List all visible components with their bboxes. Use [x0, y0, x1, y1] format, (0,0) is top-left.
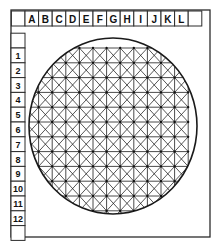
- lattice-node-dot: [146, 150, 148, 152]
- row-header-cell-12[interactable]: 12: [11, 211, 25, 226]
- lattice-node-dot: [105, 180, 107, 182]
- row-header-cell-2[interactable]: 2: [11, 63, 25, 78]
- lattice-node-dot: [160, 136, 162, 138]
- column-header-cell-c[interactable]: C: [52, 11, 66, 26]
- lattice-node-dot: [173, 180, 175, 182]
- lattice-diagonal-line: [175, 196, 189, 211]
- lattice-node-dot: [37, 91, 39, 93]
- row-header-cell-10[interactable]: 10: [11, 181, 25, 196]
- lattice-node-dot: [78, 224, 80, 226]
- row-header-cell-1[interactable]: 1: [11, 48, 25, 63]
- row-header-label: 6: [15, 125, 20, 135]
- lattice-node-dot: [92, 47, 94, 49]
- lattice-node-dot: [146, 180, 148, 182]
- lattice-node-dot: [173, 150, 175, 152]
- lattice-node-dot: [65, 121, 67, 123]
- lattice-diagonal-line: [175, 48, 189, 63]
- lattice-diagonal-line: [39, 48, 53, 63]
- lattice-diagonal-line: [25, 211, 39, 226]
- column-header-cell-d[interactable]: D: [66, 11, 80, 26]
- lattice-node-dot: [92, 62, 94, 64]
- lattice-diagonal-line: [25, 48, 39, 63]
- lattice-node-dot: [51, 106, 53, 108]
- lattice-node-dot: [37, 224, 39, 226]
- lattice-node-dot: [51, 180, 53, 182]
- lattice-node-dot: [92, 150, 94, 152]
- row-header-label: 11: [13, 199, 23, 209]
- lattice-node-dot: [146, 165, 148, 167]
- row-header-cell-7[interactable]: 7: [11, 137, 25, 152]
- lattice-node-dot: [173, 165, 175, 167]
- lattice-node-dot: [105, 195, 107, 197]
- column-header-cell-b[interactable]: B: [39, 11, 53, 26]
- column-header-cell-e[interactable]: E: [79, 11, 93, 26]
- lattice-node-dot: [65, 195, 67, 197]
- lattice-node-dot: [92, 76, 94, 78]
- lattice-node-dot: [105, 76, 107, 78]
- lattice-node-dot: [146, 91, 148, 93]
- lattice-node-dot: [119, 136, 121, 138]
- lattice-diagonal-line: [161, 196, 175, 211]
- lattice-node-dot: [51, 195, 53, 197]
- column-header-label: F: [97, 14, 103, 25]
- lattice-node-dot: [51, 224, 53, 226]
- column-header-cell-f[interactable]: F: [93, 11, 107, 26]
- column-header-label: A: [28, 14, 35, 25]
- lattice-node-dot: [187, 121, 189, 123]
- column-header-cell-k[interactable]: K: [161, 11, 175, 26]
- lattice-diagonal-line: [39, 211, 53, 226]
- lattice-diagonal-line: [79, 211, 93, 226]
- lattice-node-dot: [187, 210, 189, 212]
- lattice-node-dot: [160, 210, 162, 212]
- column-header-cell-blank[interactable]: [188, 11, 202, 26]
- row-header-cell-6[interactable]: 6: [11, 122, 25, 137]
- column-header-cell-l[interactable]: L: [175, 11, 189, 26]
- lattice-node-dot: [65, 91, 67, 93]
- row-header-label: 3: [15, 81, 20, 91]
- row-header-label: 7: [15, 140, 20, 150]
- row-header-cell-11[interactable]: 11: [11, 196, 25, 211]
- row-header-cell-9[interactable]: 9: [11, 166, 25, 181]
- lattice-node-dot: [65, 62, 67, 64]
- lattice-diagonal-line: [161, 196, 175, 211]
- row-header-cell-blank[interactable]: [11, 226, 25, 241]
- lattice-node-dot: [78, 165, 80, 167]
- column-header-label: B: [42, 14, 49, 25]
- lattice-node-dot: [51, 47, 53, 49]
- column-header-cell-a[interactable]: A: [25, 11, 39, 26]
- row-header-cell-3[interactable]: 3: [11, 78, 25, 93]
- column-header-cell-blank[interactable]: [11, 11, 25, 26]
- column-header-cell-j[interactable]: J: [147, 11, 161, 26]
- lattice-node-dot: [160, 121, 162, 123]
- lattice-node-dot: [133, 136, 135, 138]
- row-header-cell-5[interactable]: 5: [11, 107, 25, 122]
- lattice-node-dot: [78, 150, 80, 152]
- column-header: ABCDEFGHIJKL: [11, 11, 201, 26]
- lattice-node-dot: [92, 91, 94, 93]
- lattice-node-dot: [146, 76, 148, 78]
- column-header-cell-g[interactable]: G: [107, 11, 121, 26]
- lattice-node-dot: [160, 195, 162, 197]
- lattice-node-dot: [78, 195, 80, 197]
- lattice-node-dot: [51, 136, 53, 138]
- column-header-cell-i[interactable]: I: [134, 11, 148, 26]
- lattice-node-dot: [105, 121, 107, 123]
- row-header-cell-8[interactable]: 8: [11, 152, 25, 167]
- lattice-diagonal-line: [25, 166, 39, 181]
- lattice-diagonal-line: [134, 211, 148, 226]
- lattice-node-dot: [173, 106, 175, 108]
- row-header-cell-4[interactable]: 4: [11, 92, 25, 107]
- lattice-node-dot: [133, 47, 135, 49]
- row-header-cell-blank[interactable]: [11, 33, 25, 48]
- lattice-node-dot: [133, 180, 135, 182]
- lattice-node-dot: [78, 136, 80, 138]
- lattice-diagonal-line: [79, 211, 93, 226]
- column-header-cell-h[interactable]: H: [120, 11, 134, 26]
- lattice-node-dot: [160, 165, 162, 167]
- lattice-diagonal-line: [161, 211, 175, 226]
- lattice-node-dot: [119, 91, 121, 93]
- lattice-node-dot: [92, 195, 94, 197]
- column-header-label: E: [83, 14, 90, 25]
- lattice-node-dot: [133, 76, 135, 78]
- lattice-node-dot: [160, 62, 162, 64]
